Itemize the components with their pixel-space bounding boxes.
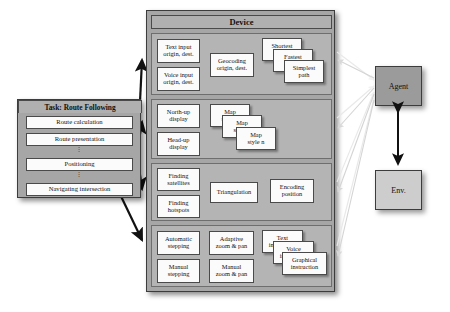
function-north-up-display[interactable]: North-updisplay [157, 104, 200, 128]
function-manual-zoom-pan[interactable]: Manualzoom & pan [209, 259, 254, 283]
device-section-route-presentation: North-updisplay Head-updisplay Mapstyle … [151, 99, 332, 159]
task-item-route-presentation[interactable]: Route presentation [26, 133, 133, 146]
function-automatic-stepping[interactable]: Automaticstepping [157, 231, 200, 255]
function-encoding-position[interactable]: Encodingposition [270, 179, 314, 203]
function-finding-satellites[interactable]: Findingsatellites [157, 168, 200, 191]
task-item-route-calculation[interactable]: Route calculation [26, 116, 133, 129]
function-head-up-display[interactable]: Head-updisplay [157, 132, 200, 156]
function-geocoding[interactable]: Geocodingorigin, dest. [210, 53, 254, 77]
function-voice-input[interactable]: Voice inputorigin, dest. [157, 67, 200, 91]
agent-box[interactable]: Agent [375, 66, 422, 106]
device-section-navigating-intersection: Automaticstepping Manualstepping Adaptiv… [151, 225, 332, 287]
task-ellipsis-2: ⋮ [18, 173, 140, 176]
device-panel: Device Text inputorigin, dest. Voice inp… [146, 10, 335, 292]
device-title: Device [151, 15, 332, 29]
function-manual-stepping[interactable]: Manualstepping [157, 259, 200, 283]
task-item-positioning[interactable]: Positioning [26, 158, 133, 171]
task-item-navigating-intersection[interactable]: Navigating intersection [26, 183, 133, 196]
function-text-input[interactable]: Text inputorigin, dest. [157, 39, 200, 63]
function-triangulation[interactable]: Triangulation [210, 182, 258, 203]
device-section-positioning: Findingsatellites Findinghotspots Triang… [151, 163, 332, 221]
device-section-route-calculation: Text inputorigin, dest. Voice inputorigi… [151, 33, 332, 95]
function-map-style-n[interactable]: Mapstyle n [236, 127, 276, 150]
task-ellipsis-1: ⋮ [18, 148, 140, 151]
function-simplest-path[interactable]: Simplestpath [284, 60, 324, 83]
task-panel: Task: Route Following Route calculation … [17, 99, 141, 198]
env-box[interactable]: Env. [375, 170, 422, 210]
function-graphical-instruction[interactable]: Graphicalinstruction [282, 252, 327, 275]
function-adaptive-zoom-pan[interactable]: Adaptivezoom & pan [209, 231, 254, 255]
task-title: Task: Route Following [18, 100, 142, 113]
function-finding-hotspots[interactable]: Findinghotspots [157, 195, 200, 218]
diagram-canvas: Device Text inputorigin, dest. Voice inp… [0, 0, 450, 312]
